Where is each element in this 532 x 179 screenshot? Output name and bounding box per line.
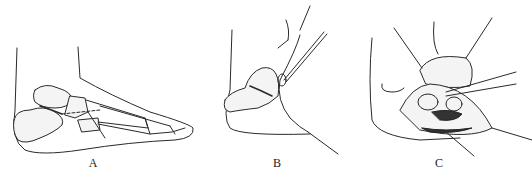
panel-a: A	[0, 0, 200, 179]
panel-label-a: A	[83, 156, 103, 171]
panel-label-c: C	[429, 156, 449, 171]
panel-b: B	[200, 0, 370, 179]
heel-retraction-illustration	[200, 0, 370, 179]
panel-label-b: B	[267, 156, 287, 171]
foot-skeleton-illustration	[0, 0, 200, 179]
open-wound-retractors-illustration	[360, 0, 532, 179]
panel-c: C	[360, 0, 532, 179]
